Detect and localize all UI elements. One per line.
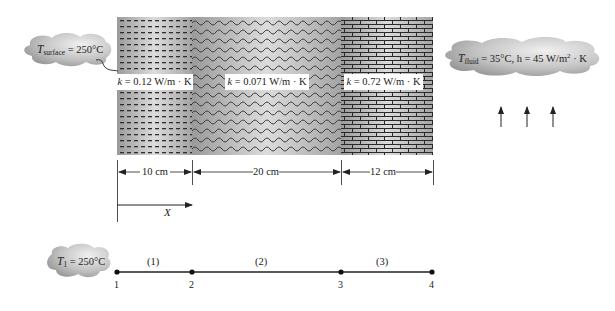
element-3-label: (3) [376, 256, 388, 267]
element-2-label: (2) [255, 256, 267, 267]
surface-temperature-label: Tsurface = 250°C [37, 42, 103, 60]
layer-1-thickness: 10 cm [140, 166, 170, 178]
fluid-condition-value: = 35°C, h = 45 W/m [481, 53, 567, 64]
node1-temperature-label: T1 = 250°C [57, 254, 105, 272]
node-3 [338, 269, 343, 274]
node-4 [429, 269, 434, 274]
node-1-number: 1 [114, 279, 119, 290]
layer-3-conductivity-label: k = 0.72 W/m · K [344, 74, 423, 90]
fluid-condition-label: Tfluid = 35°C, h = 45 W/m2 · K [458, 49, 587, 69]
node-4-number: 4 [429, 279, 434, 290]
k-value: = 0.12 W/m · K [122, 76, 191, 87]
fluid-temperature-subscript: fluid [464, 57, 478, 66]
element-1-label: (1) [147, 256, 159, 267]
temperature-subscript: surface [43, 48, 65, 57]
layer-2-conductivity-label: k = 0.071 W/m · K [225, 74, 309, 90]
temperature-value: = 250°C [68, 44, 104, 55]
layer-3-thickness: 12 cm [370, 166, 396, 178]
x-axis-label: X [164, 206, 171, 218]
layer-2-thickness: 20 cm [253, 166, 279, 178]
convection-arrows [501, 107, 553, 127]
node-1 [114, 269, 119, 274]
unit-tail: · K [571, 53, 587, 64]
t1-value: = 250°C [67, 256, 105, 267]
finite-element-model [114, 269, 434, 274]
node-2 [189, 269, 194, 274]
k-value: = 0.72 W/m · K [351, 76, 420, 87]
node-3-number: 3 [338, 279, 343, 290]
node-2-number: 2 [189, 279, 194, 290]
layer-1-conductivity-label: k = 0.12 W/m · K [116, 74, 193, 90]
k-value: = 0.071 W/m · K [232, 76, 307, 87]
